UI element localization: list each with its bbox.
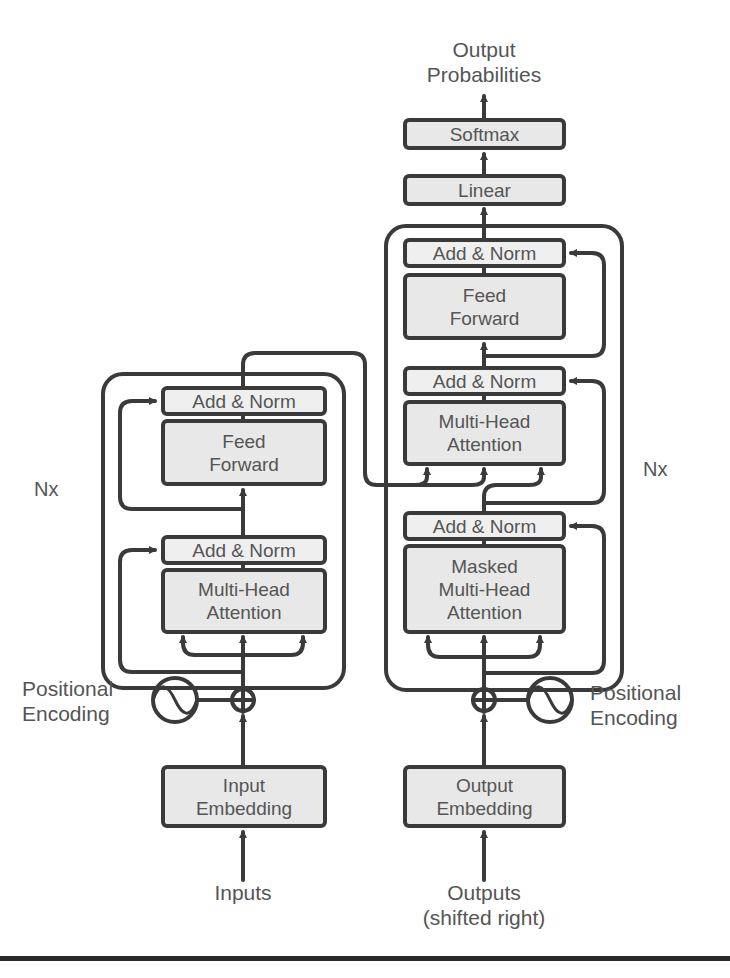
- decoder-attention-line1: Multi-Head: [439, 410, 531, 433]
- decoder-add-norm-1-label: Add & Norm: [433, 242, 536, 265]
- encoder-feed-forward-block: Feed Forward: [161, 419, 327, 486]
- sine-wave-icon: [153, 678, 197, 722]
- output-embedding-block: Output Embedding: [403, 765, 566, 828]
- decoder-multi-head-attention-block: Multi-Head Attention: [403, 400, 566, 466]
- encoder-feed-forward-line2: Forward: [209, 453, 279, 476]
- sine-wave-icon: [528, 678, 572, 722]
- encoder-add-norm-top-label: Add & Norm: [192, 390, 295, 413]
- softmax-label: Softmax: [450, 123, 520, 146]
- decoder-pe-line1: Positional: [590, 680, 720, 705]
- decoder-feed-forward-line1: Feed: [463, 284, 506, 307]
- decoder-feed-forward-block: Feed Forward: [403, 273, 566, 340]
- input-embedding-line1: Input: [223, 774, 265, 797]
- encoder-attention-line1: Multi-Head: [198, 578, 290, 601]
- output-embedding-line1: Output: [456, 774, 513, 797]
- output-probabilities-line1: Output: [404, 37, 564, 62]
- decoder-masked-attention-block: Masked Multi-Head Attention: [403, 544, 566, 634]
- encoder-add-norm-top: Add & Norm: [161, 386, 327, 416]
- decoder-add-norm-2-label: Add & Norm: [433, 370, 536, 393]
- circle-plus-icon: [232, 689, 254, 711]
- encoder-pe-line1: Positional: [22, 676, 152, 701]
- decoder-add-norm-3-label: Add & Norm: [433, 515, 536, 538]
- encoder-repeat-label: Nx: [34, 478, 58, 501]
- output-probabilities-line2: Probabilities: [404, 62, 564, 87]
- encoder-positional-encoding-label: Positional Encoding: [22, 676, 152, 726]
- decoder-feed-forward-line2: Forward: [450, 307, 520, 330]
- decoder-masked-line1: Masked: [451, 555, 518, 578]
- inputs-label: Inputs: [163, 880, 323, 905]
- decoder-add-norm-2: Add & Norm: [403, 366, 566, 396]
- input-embedding-line2: Embedding: [196, 797, 292, 820]
- encoder-add-norm-bottom-label: Add & Norm: [192, 539, 295, 562]
- outputs-shifted-right-label: Outputs (shifted right): [394, 880, 574, 930]
- encoder-attention-line2: Attention: [207, 601, 282, 624]
- decoder-repeat-label: Nx: [643, 458, 667, 481]
- caption-divider: [0, 956, 730, 961]
- softmax-block: Softmax: [403, 118, 566, 150]
- decoder-pe-line2: Encoding: [590, 705, 720, 730]
- outputs-label-line1: Outputs: [394, 880, 574, 905]
- decoder-add-norm-3: Add & Norm: [403, 511, 566, 541]
- output-embedding-line2: Embedding: [436, 797, 532, 820]
- connector-lines: [0, 0, 730, 978]
- encoder-pe-line2: Encoding: [22, 701, 152, 726]
- input-embedding-block: Input Embedding: [161, 765, 327, 828]
- transformer-diagram: Output Probabilities Softmax Linear Add …: [0, 0, 730, 978]
- decoder-attention-line2: Attention: [447, 433, 522, 456]
- encoder-add-norm-bottom: Add & Norm: [161, 535, 327, 565]
- linear-label: Linear: [458, 179, 511, 202]
- outputs-label-line2: (shifted right): [394, 905, 574, 930]
- encoder-feed-forward-line1: Feed: [222, 430, 265, 453]
- decoder-add-norm-1: Add & Norm: [403, 238, 566, 268]
- decoder-positional-encoding-label: Positional Encoding: [590, 680, 720, 730]
- decoder-masked-line2: Multi-Head: [439, 578, 531, 601]
- decoder-masked-line3: Attention: [447, 601, 522, 624]
- linear-block: Linear: [403, 174, 566, 206]
- encoder-multi-head-attention-block: Multi-Head Attention: [161, 568, 327, 634]
- output-probabilities-label: Output Probabilities: [404, 37, 564, 87]
- circle-plus-icon: [473, 689, 495, 711]
